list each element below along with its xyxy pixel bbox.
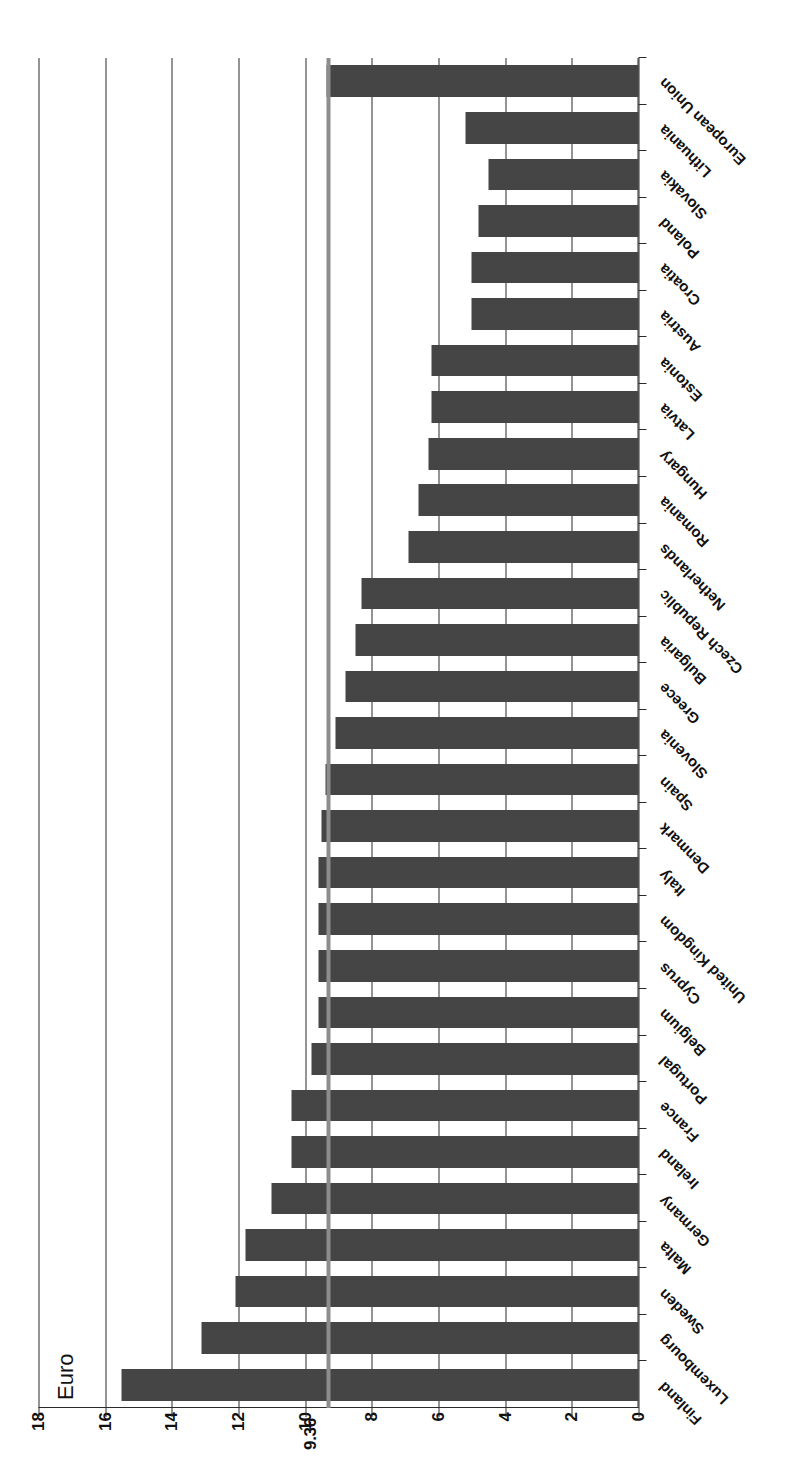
category-tick-mark [638,941,646,942]
category-tick-mark [638,336,646,337]
value-tick-label: 0 [628,1412,648,1458]
category-tick-mark [638,57,646,58]
category-tick-mark [638,243,646,244]
bar-slot [38,1036,638,1083]
bar-slot [38,1315,638,1362]
category-tick-mark [638,383,646,384]
bar [235,1276,638,1308]
reference-line [326,58,330,1408]
bar [418,484,638,516]
chart-page: 024681012141618 9.36 Euro FinlandLuxembo… [0,0,789,1468]
bar-series [38,58,638,1408]
bar-slot [38,1129,638,1176]
bar-slot [38,943,638,990]
bar [488,159,638,191]
value-tick-mark [638,1408,639,1417]
bar-slot [38,291,638,338]
value-tick-label: 14 [161,1412,181,1458]
bar [431,391,638,423]
bar [471,298,638,330]
bar-slot [38,710,638,757]
category-tick-mark [638,1128,646,1129]
category-tick-mark [638,569,646,570]
value-tick-mark [105,1408,106,1417]
reference-line-label: 9.36 [300,1418,320,1450]
bar-slot [38,1361,638,1408]
bar [291,1090,638,1122]
bar-chart: 024681012141618 9.36 Euro FinlandLuxembo… [0,0,789,1468]
bar-slot [38,58,638,105]
bar-slot [38,1222,638,1269]
bar [345,671,638,703]
category-tick-mark [638,1314,646,1315]
bar-slot [38,105,638,152]
category-tick-mark [638,1267,646,1268]
value-axis-title: Euro [52,1354,78,1400]
value-tick-mark [505,1408,506,1417]
bar-slot [38,477,638,524]
bar-slot [38,570,638,617]
bar [408,531,638,563]
category-tick-mark [638,1174,646,1175]
bar [318,857,638,889]
bar-slot [38,1082,638,1129]
bar [321,810,638,842]
bar-slot [38,1268,638,1315]
category-tick-mark [638,197,646,198]
bar [311,1043,638,1075]
category-tick-mark [638,1221,646,1222]
category-tick-mark [638,988,646,989]
bar-slot [38,617,638,664]
category-tick-mark [638,1360,646,1361]
bar [318,997,638,1029]
bar [431,345,638,377]
value-tick-label: 2 [561,1412,581,1458]
bar-slot [38,756,638,803]
value-tick-mark [438,1408,439,1417]
bar [335,717,638,749]
value-tick-label: 4 [495,1412,515,1458]
category-tick-mark [638,1035,646,1036]
bar [478,205,638,237]
category-tick-mark [638,848,646,849]
bar [318,950,638,982]
bar-slot [38,337,638,384]
category-tick-mark [638,523,646,524]
bar-slot [38,430,638,477]
plot-area [38,58,638,1408]
bar-slot [38,803,638,850]
bar [121,1369,638,1401]
category-tick-mark [638,1081,646,1082]
bar [201,1322,638,1354]
value-tick-label: 6 [428,1412,448,1458]
value-tick-label: 16 [95,1412,115,1458]
bar-slot [38,989,638,1036]
bar [291,1136,638,1168]
plot-left-border [38,1407,638,1408]
bar-slot [38,1175,638,1222]
category-tick-mark [638,429,646,430]
category-tick-mark [638,104,646,105]
value-tick-mark [171,1408,172,1417]
bar [355,624,638,656]
bar [325,764,638,796]
value-tick-label: 8 [361,1412,381,1458]
bar-slot [38,384,638,431]
category-tick-mark [638,709,646,710]
bar [245,1229,638,1261]
category-tick-mark [638,802,646,803]
value-tick-mark [38,1408,39,1417]
bar-slot [38,849,638,896]
category-tick-mark [638,290,646,291]
bar [428,438,638,470]
bar-slot [38,151,638,198]
value-tick-mark [238,1408,239,1417]
category-tick-mark [638,616,646,617]
bar [465,112,638,144]
category-tick-mark [638,662,646,663]
category-tick-mark [638,755,646,756]
category-tick-mark [638,150,646,151]
category-tick-mark [638,895,646,896]
value-tick-mark [371,1408,372,1417]
bar [471,252,638,284]
